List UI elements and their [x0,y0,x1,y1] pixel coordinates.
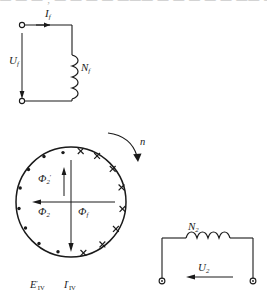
rotor-dot [56,250,59,253]
rotor-dot [19,186,22,189]
field-current-arrowhead [44,23,50,28]
field-terminal-top [19,22,24,27]
label-rotation-direction: n [140,137,145,148]
field-coil-symbol [72,55,78,99]
rotor-dot [24,226,27,229]
rotor-dot [17,207,20,210]
label-flux-secondary-prime: Φ2′ [38,173,51,185]
label-flux-secondary: Φ2 [38,206,50,218]
label-field-voltage: Uf [9,55,19,67]
label-secondary-voltage: U2 [198,262,209,274]
secondary-terminal-right-dot [252,280,254,282]
rotation-arrowhead [133,153,141,162]
rotor-dot [37,242,40,245]
field-terminal-bottom [19,98,24,103]
label-flux-field: Φf [78,206,88,218]
field-voltage-arrowhead [20,91,25,99]
secondary-terminal-left-dot [161,280,163,282]
label-secondary-coil: N2 [188,221,199,233]
rotation-arc [108,133,137,156]
rotor-dot [61,151,64,154]
figure-linework [0,0,267,301]
figure-canvas: — — — , — — — — ——— — — — — — —— — — , —… [0,0,267,301]
label-induced-current: I′IV [64,280,76,291]
rotor-dot [42,155,45,158]
label-field-current: If [45,8,51,20]
secondary-voltage-arrowhead [186,274,195,279]
label-induced-emf: E′IV [30,280,45,291]
label-field-coil: Nf [81,62,90,74]
rotor-dot [27,168,30,171]
